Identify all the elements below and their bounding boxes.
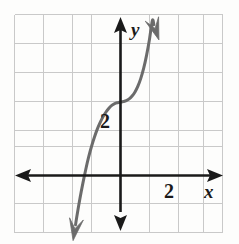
axes — [15, 17, 223, 231]
grid-lines — [15, 15, 223, 233]
coordinate-plane: y x 2 2 — [0, 0, 239, 244]
y-tick-label-2: 2 — [100, 110, 110, 132]
graph-figure: y x 2 2 — [0, 0, 239, 244]
y-axis-label: y — [129, 19, 140, 40]
function-curve — [76, 20, 154, 225]
x-axis-label: x — [203, 181, 214, 202]
arrow-down-icon — [114, 215, 127, 231]
x-tick-label-2: 2 — [164, 180, 174, 202]
function-curve-group — [70, 17, 159, 241]
